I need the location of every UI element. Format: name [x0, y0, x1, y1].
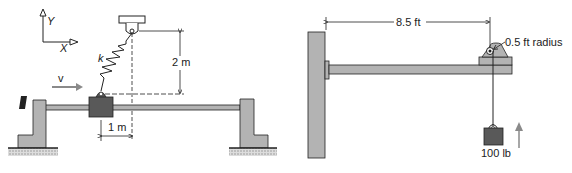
velocity-label: v: [58, 72, 64, 84]
stop-block: [19, 96, 27, 109]
upward-arrow-icon: [515, 122, 523, 131]
spring-constant-label: k: [98, 52, 104, 64]
span-dimension-label: 8.5 ft: [396, 16, 420, 28]
guide-rod: [45, 105, 240, 110]
weight: [484, 125, 503, 146]
pulley-radius-label: 0.5 ft radius: [505, 36, 563, 48]
velocity-arrow-icon: [76, 83, 83, 91]
coordinate-axes-icon: [40, 9, 78, 45]
x-axis-label: X: [59, 42, 68, 54]
collar: [89, 92, 113, 117]
wall-bracket: [325, 61, 329, 79]
vertical-dimension-label: 2 m: [172, 56, 190, 68]
y-axis-label: Y: [47, 15, 55, 27]
weight-label: 100 lb: [481, 147, 511, 159]
spring: [100, 33, 132, 91]
cantilever-beam: [329, 65, 512, 74]
horizontal-dimension-label: 1 m: [108, 121, 126, 133]
left-figure: Y X k 2 m v: [8, 9, 277, 156]
wall: [308, 32, 325, 158]
right-figure: 8.5 ft 0.5 ft radius 100 lb: [308, 15, 563, 159]
